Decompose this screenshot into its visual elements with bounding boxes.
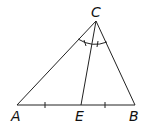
label-a: A	[10, 108, 21, 124]
label-b: B	[129, 108, 139, 124]
angle-tick-ecb	[97, 41, 98, 47]
segment-ce	[81, 21, 96, 105]
label-e: E	[75, 108, 84, 124]
segment-ac	[17, 21, 96, 105]
segment-bc	[96, 21, 135, 105]
label-c: C	[91, 4, 101, 20]
triangle-diagram: C A E B	[0, 0, 144, 128]
